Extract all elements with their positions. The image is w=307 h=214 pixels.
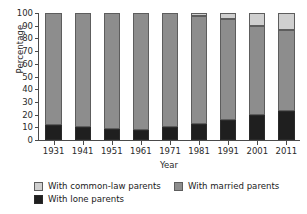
bar-segment-1951-with-married-parents[interactable]: [104, 13, 120, 129]
bar-1961[interactable]: [133, 13, 149, 140]
legend-swatch-lone-icon: [34, 195, 43, 204]
y-tick-label: 50: [3, 72, 33, 81]
legend-label-married: With married parents: [188, 181, 279, 192]
y-tick-mark: [35, 140, 39, 141]
legend-item-common-law: With common-law parents: [34, 181, 174, 192]
x-axis-title: Year: [38, 160, 300, 170]
y-tick-label: 80: [3, 34, 33, 43]
bar-segment-2011-with-married-parents[interactable]: [278, 30, 294, 111]
y-tick-label: 100: [3, 9, 33, 18]
bar-1951[interactable]: [104, 13, 120, 140]
bar-1931[interactable]: [45, 13, 61, 140]
legend-row-1: With common-law parents With married par…: [34, 181, 302, 192]
x-tick-mark: [257, 140, 258, 145]
y-tick-label: 40: [3, 85, 33, 94]
y-tick-mark: [35, 64, 39, 65]
stacked-bar-chart: Percentage 01020304050607080901001931194…: [0, 0, 307, 214]
x-tick-mark: [228, 140, 229, 145]
x-tick-mark: [83, 140, 84, 145]
legend-row-2: With lone parents: [34, 194, 302, 205]
bar-segment-1971-with-lone-parents[interactable]: [162, 127, 178, 140]
y-tick-mark: [35, 127, 39, 128]
y-tick-label: 20: [3, 110, 33, 119]
x-tick-mark: [141, 140, 142, 145]
y-tick-mark: [35, 77, 39, 78]
bar-segment-1981-with-common-law-parents[interactable]: [191, 13, 207, 16]
y-tick-mark: [35, 51, 39, 52]
plot-inner: 0102030405060708090100193119411951196119…: [39, 14, 300, 140]
plot-area: 0102030405060708090100193119411951196119…: [38, 14, 300, 141]
bar-segment-2011-with-lone-parents[interactable]: [278, 111, 294, 140]
bar-segment-1971-with-married-parents[interactable]: [162, 13, 178, 127]
bar-1941[interactable]: [75, 13, 91, 140]
legend-swatch-married-icon: [174, 182, 183, 191]
bar-segment-1991-with-married-parents[interactable]: [220, 19, 236, 119]
bar-segment-1931-with-married-parents[interactable]: [45, 13, 61, 125]
y-tick-label: 60: [3, 60, 33, 69]
y-tick-label: 0: [3, 136, 33, 145]
y-tick-mark: [35, 26, 39, 27]
bar-segment-1941-with-lone-parents[interactable]: [75, 127, 91, 140]
x-tick-mark: [112, 140, 113, 145]
y-tick-label: 30: [3, 98, 33, 107]
bar-1971[interactable]: [162, 13, 178, 140]
y-tick-label: 90: [3, 21, 33, 30]
y-tick-label: 70: [3, 47, 33, 56]
bar-2001[interactable]: [249, 13, 265, 140]
legend-label-lone: With lone parents: [48, 194, 124, 205]
bar-segment-2001-with-common-law-parents[interactable]: [249, 13, 265, 26]
bar-1991[interactable]: [220, 13, 236, 140]
bar-segment-1981-with-lone-parents[interactable]: [191, 124, 207, 141]
bar-segment-1961-with-lone-parents[interactable]: [133, 130, 149, 140]
y-tick-mark: [35, 115, 39, 116]
x-tick-mark: [199, 140, 200, 145]
x-tick-mark: [286, 140, 287, 145]
y-tick-label: 10: [3, 123, 33, 132]
y-tick-mark: [35, 38, 39, 39]
x-tick-mark: [170, 140, 171, 145]
legend-label-common-law: With common-law parents: [48, 181, 161, 192]
legend-item-married: With married parents: [174, 181, 279, 192]
y-tick-mark: [35, 102, 39, 103]
bar-1981[interactable]: [191, 13, 207, 140]
x-tick-mark: [54, 140, 55, 145]
x-tick-label: 2011: [266, 147, 306, 156]
chart-legend: With common-law parents With married par…: [34, 181, 302, 207]
bar-2011[interactable]: [278, 13, 294, 140]
bar-segment-2011-with-common-law-parents[interactable]: [278, 13, 294, 30]
bar-segment-2001-with-lone-parents[interactable]: [249, 115, 265, 140]
legend-item-lone: With lone parents: [34, 194, 174, 205]
bar-segment-1951-with-lone-parents[interactable]: [104, 129, 120, 140]
bar-segment-1991-with-common-law-parents[interactable]: [220, 13, 236, 19]
bar-segment-1961-with-married-parents[interactable]: [133, 13, 149, 130]
bar-segment-1931-with-lone-parents[interactable]: [45, 125, 61, 140]
bar-segment-2001-with-married-parents[interactable]: [249, 26, 265, 115]
y-tick-mark: [35, 89, 39, 90]
bar-segment-1941-with-married-parents[interactable]: [75, 13, 91, 127]
legend-swatch-common-law-icon: [34, 182, 43, 191]
bar-segment-1981-with-married-parents[interactable]: [191, 16, 207, 123]
y-tick-mark: [35, 13, 39, 14]
bar-segment-1991-with-lone-parents[interactable]: [220, 120, 236, 140]
